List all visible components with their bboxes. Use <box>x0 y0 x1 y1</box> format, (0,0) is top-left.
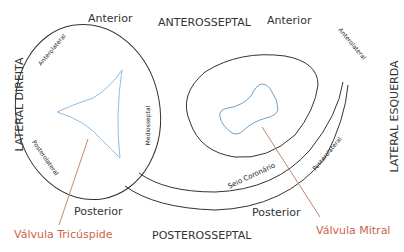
mitral-annulus <box>186 55 318 158</box>
label-posterior-right: Posterior <box>252 206 301 219</box>
label-anterosseptal: ANTEROSSEPTAL <box>158 16 251 29</box>
label-posterosseptal: POSTEROSSEPTAL <box>152 229 251 242</box>
tricuspid-valve-shape <box>57 70 122 158</box>
label-anterior-left: Anterior <box>88 12 132 25</box>
label-lateral-esquerda: LATERAL ESQUERDA <box>388 60 401 172</box>
label-valvula-mitral: Válvula Mitral <box>316 224 390 237</box>
label-anterior-right: Anterior <box>267 14 311 27</box>
mitral-pointer <box>262 127 320 217</box>
coronary-sinus-outer <box>125 85 348 210</box>
label-mediosseptal: Mediosseptal <box>144 106 151 145</box>
label-posterior-left: Posterior <box>74 205 123 218</box>
label-lateral-direita: LATERAL DIREITA <box>13 57 26 151</box>
label-valvula-tricuspide: Válvula Tricúspide <box>14 228 112 241</box>
mitral-valve-shape <box>220 84 278 134</box>
